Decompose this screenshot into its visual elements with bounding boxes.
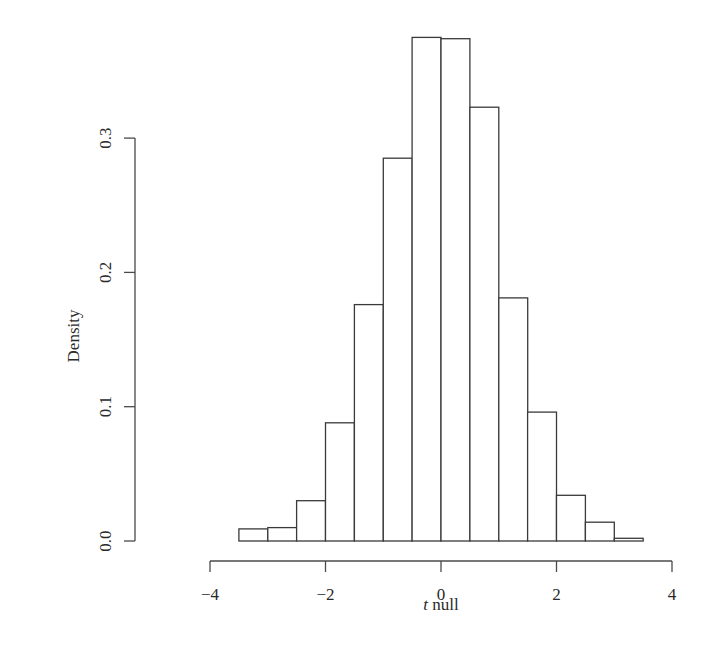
- x-tick-label: 4: [668, 585, 677, 604]
- x-tick-label: 2: [552, 585, 561, 604]
- y-axis: 0.00.10.20.3: [96, 127, 135, 551]
- histogram-bar: [326, 423, 355, 541]
- histogram-bar: [412, 37, 441, 541]
- x-axis-title-rest: null: [428, 595, 459, 614]
- histogram-bar: [557, 495, 586, 541]
- histogram-bar: [528, 412, 557, 541]
- histogram-bars: [239, 37, 643, 541]
- y-tick-label: 0.2: [96, 262, 115, 283]
- y-tick-label: 0.0: [96, 530, 115, 551]
- histogram-bar: [383, 158, 412, 541]
- histogram-bar: [614, 538, 643, 541]
- x-axis-title: t null: [423, 595, 459, 614]
- y-tick-label: 0.3: [96, 127, 115, 148]
- histogram-bar: [354, 305, 383, 541]
- histogram-bar: [268, 528, 297, 541]
- histogram-bar: [239, 529, 268, 541]
- x-tick-label: −2: [316, 585, 334, 604]
- histogram-chart: 0.00.10.20.3 −4−2024 Density t null: [0, 0, 711, 664]
- histogram-bar: [441, 39, 470, 541]
- histogram-bar: [470, 107, 499, 541]
- histogram-bar: [499, 298, 528, 541]
- y-tick-label: 0.1: [96, 396, 115, 417]
- y-axis-title: Density: [64, 309, 83, 362]
- histogram-bar: [585, 522, 614, 541]
- x-tick-label: −4: [201, 585, 220, 604]
- histogram-bar: [297, 501, 326, 541]
